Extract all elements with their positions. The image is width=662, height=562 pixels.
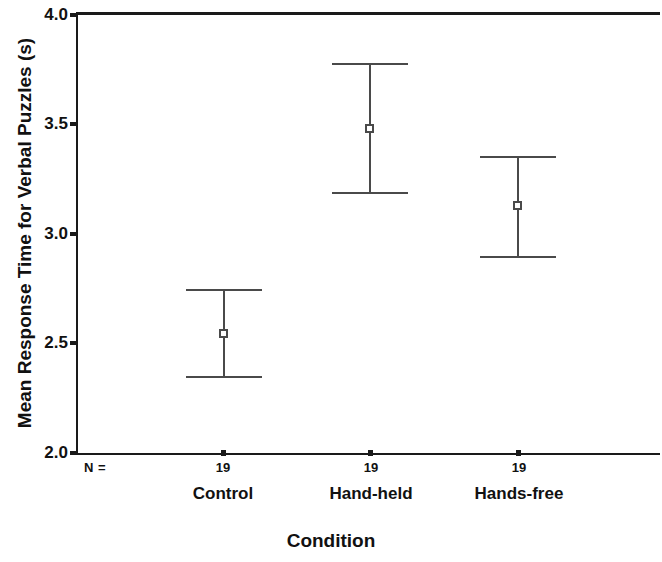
sample-size-control: 19 (183, 460, 263, 475)
y-axis-line (76, 14, 78, 455)
x-category-label-control: Control (143, 484, 303, 504)
y-tick-label-2.5: 2.5 (22, 334, 68, 351)
x-category-label-hands-free: Hands-free (439, 484, 599, 504)
y-tick-label-3.0: 3.0 (22, 225, 68, 242)
x-category-label-hand-held: Hand-held (291, 484, 451, 504)
chart-figure: Mean Response Time for Verbal Puzzles (s… (0, 0, 662, 562)
x-tick-mark-hand-held (368, 450, 373, 456)
mean-marker-control (219, 329, 228, 338)
sample-size-hands-free: 19 (479, 460, 559, 475)
x-axis-title: Condition (0, 530, 662, 552)
y-tick-label-2.0: 2.0 (22, 444, 68, 461)
mean-marker-hand-held (365, 124, 374, 133)
y-tick-label-3.5: 3.5 (22, 115, 68, 132)
error-bar-hand-held-lower-cap (332, 192, 408, 194)
y-tick-label-4.0: 4.0 (22, 6, 68, 23)
x-tick-mark-control (221, 450, 226, 456)
plot-top-border (76, 12, 660, 15)
error-bar-hands-free-lower-cap (480, 256, 556, 258)
error-bar-control-lower-cap (186, 376, 262, 378)
x-tick-mark-hands-free (516, 450, 521, 456)
sample-size-hand-held: 19 (331, 460, 411, 475)
mean-marker-hands-free (513, 201, 522, 210)
sample-size-legend: N = (84, 460, 106, 475)
